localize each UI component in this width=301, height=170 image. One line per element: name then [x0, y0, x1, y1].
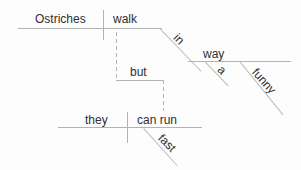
subject-verb-divider-clause1: [103, 10, 104, 40]
sentence-diagram: Ostriches walk in way a funny but they c…: [0, 0, 301, 170]
subject-verb-divider-clause2: [127, 112, 128, 143]
baseline-clause1: [18, 28, 162, 29]
word-adverb: fast: [155, 131, 179, 155]
word-subject-clause1: Ostriches: [35, 12, 86, 26]
word-preposition-object: way: [203, 47, 224, 61]
word-conjunction: but: [130, 65, 147, 79]
conjunction-dashed-line-lower: [163, 80, 164, 111]
word-subject-clause2: they: [85, 113, 108, 127]
word-adjective: funny: [249, 65, 279, 96]
word-article: a: [215, 63, 230, 78]
word-preposition: in: [171, 31, 188, 48]
baseline-clause2: [58, 127, 202, 128]
word-verb-clause1: walk: [113, 12, 137, 26]
conjunction-step-line: [116, 80, 163, 81]
conjunction-dashed-line-upper: [116, 32, 117, 80]
word-verb-clause2: can run: [137, 113, 177, 127]
